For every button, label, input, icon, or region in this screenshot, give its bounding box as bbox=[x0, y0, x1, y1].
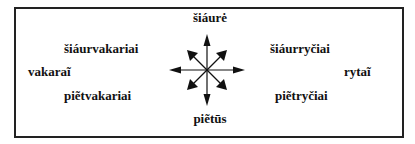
label-north: šiáurė bbox=[193, 11, 227, 24]
label-northwest: šiáurvakariai bbox=[64, 42, 138, 55]
label-southeast: piẽtryčiai bbox=[275, 89, 328, 102]
label-south: piẽtūs bbox=[193, 112, 226, 125]
label-east: rytaĩ bbox=[344, 65, 371, 78]
label-west: vakaraĩ bbox=[28, 65, 71, 78]
label-southwest: piẽtvakariai bbox=[64, 89, 131, 102]
label-northeast: šiáurryčiai bbox=[270, 42, 330, 55]
compass-rose-icon bbox=[167, 32, 247, 108]
